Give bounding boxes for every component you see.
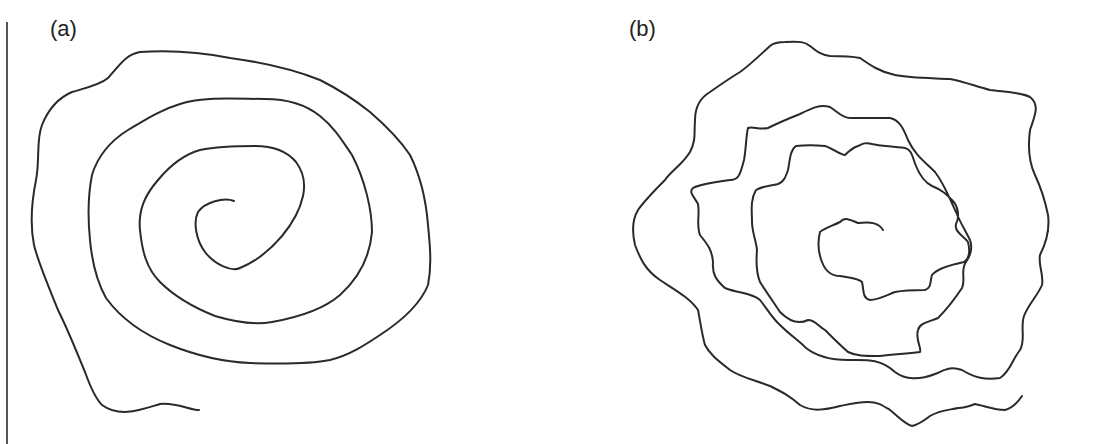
figure: (a) (b)	[0, 0, 1114, 444]
spiral-b	[633, 42, 1048, 426]
spiral-drawings	[0, 0, 1114, 444]
spiral-a	[32, 51, 430, 412]
